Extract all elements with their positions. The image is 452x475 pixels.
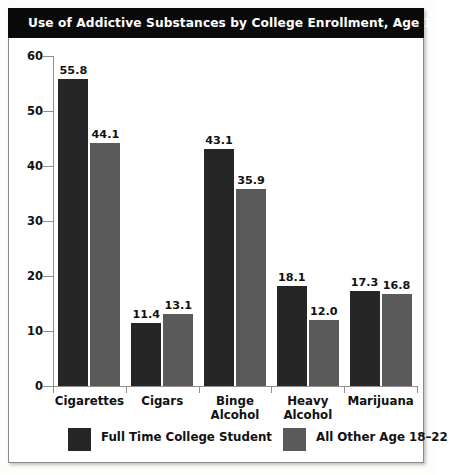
- category-label-line: Alcohol: [283, 408, 332, 422]
- chart-title-bar: Use of Addictive Substances by College E…: [8, 8, 424, 38]
- y-axis-line: [53, 56, 54, 386]
- y-axis-tick-label: 30: [11, 221, 43, 222]
- bar: [58, 79, 88, 386]
- x-axis-category-label: Cigarettes: [53, 394, 126, 408]
- x-axis-category-label: BingeAlcohol: [199, 394, 272, 422]
- x-axis-tick: [199, 386, 200, 393]
- y-axis-tick: [43, 386, 53, 387]
- chart-legend: Full Time College StudentAll Other Age 1…: [9, 426, 425, 463]
- category-label-line: Cigarettes: [55, 394, 124, 408]
- bar: [90, 143, 120, 386]
- page-title: Use of Addictive Substances by College E…: [28, 8, 452, 38]
- bar: [236, 189, 266, 386]
- y-axis-tick: [43, 331, 53, 332]
- y-axis-tick: [43, 166, 53, 167]
- chart-card: Use of Addictive Substances by College E…: [8, 8, 424, 463]
- x-axis-line: [53, 386, 417, 387]
- bar: [277, 286, 307, 386]
- bar: [131, 323, 161, 386]
- legend-swatch: [68, 428, 91, 451]
- y-axis-tick-label: 60: [11, 56, 43, 57]
- y-axis-tick-label: 20: [11, 276, 43, 277]
- y-axis-tick-label: 10: [11, 331, 43, 332]
- y-axis-tick: [43, 111, 53, 112]
- bar-value-label: 55.8: [52, 64, 94, 77]
- x-axis-tick: [417, 386, 418, 393]
- legend-swatch: [283, 428, 306, 451]
- bar-value-label: 18.1: [271, 271, 313, 284]
- bar-value-label: 12.0: [303, 305, 345, 318]
- x-axis-category-label: HeavyAlcohol: [271, 394, 344, 422]
- bar: [163, 314, 193, 386]
- x-axis-tick: [344, 386, 345, 393]
- y-axis-tick: [43, 276, 53, 277]
- bar: [382, 294, 412, 386]
- bar-value-label: 35.9: [230, 174, 272, 187]
- x-axis-tick: [53, 386, 54, 393]
- x-axis-category-label: Marijuana: [344, 394, 417, 408]
- legend-label: Full Time College Student: [101, 430, 272, 444]
- y-axis-tick-label: 40: [11, 166, 43, 167]
- bar-value-label: 16.8: [376, 279, 418, 292]
- bar: [309, 320, 339, 386]
- legend-label: All Other Age 18–22: [316, 430, 448, 444]
- category-label-line: Marijuana: [347, 394, 413, 408]
- category-label-line: Binge: [216, 394, 254, 408]
- category-label-line: Alcohol: [211, 408, 260, 422]
- y-axis-tick: [43, 221, 53, 222]
- y-axis-tick-label: 0: [11, 386, 43, 387]
- x-axis-tick: [271, 386, 272, 393]
- y-axis-tick: [43, 56, 53, 57]
- x-axis-tick: [126, 386, 127, 393]
- plot-area: 0102030405060 55.844.111.413.143.135.918…: [45, 56, 417, 386]
- chart-panel: 0102030405060 55.844.111.413.143.135.918…: [8, 38, 424, 463]
- category-label-line: Heavy: [287, 394, 328, 408]
- bar-value-label: 43.1: [198, 134, 240, 147]
- category-label-line: Cigars: [141, 394, 183, 408]
- bar: [350, 291, 380, 386]
- x-axis-category-label: Cigars: [126, 394, 199, 408]
- bar-value-label: 13.1: [157, 299, 199, 312]
- y-axis-tick-label: 50: [11, 111, 43, 112]
- bar-value-label: 44.1: [84, 128, 126, 141]
